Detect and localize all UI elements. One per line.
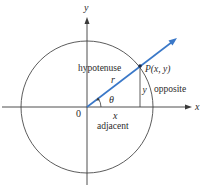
adjacent-side-label: x [112, 110, 118, 121]
point-label: P(x, y) [144, 64, 170, 75]
terminal-ray [87, 42, 172, 107]
opposite-side-label: y [142, 85, 148, 95]
opposite-label: opposite [154, 84, 186, 94]
unit-circle-diagram: y x 0 hypotenuse r P(x, y) y opposite θ … [0, 0, 204, 188]
y-axis-label: y [83, 2, 89, 13]
radius-label: r [111, 74, 115, 85]
x-axis-label: x [194, 101, 200, 112]
x-axis-arrow-icon [185, 105, 192, 110]
origin-label: 0 [76, 108, 81, 119]
diagram-canvas: y x 0 hypotenuse r P(x, y) y opposite θ … [0, 0, 204, 188]
point-p [138, 64, 142, 68]
y-axis-arrow-icon [85, 17, 90, 24]
hypotenuse-label: hypotenuse [78, 63, 121, 73]
adjacent-label: adjacent [97, 121, 129, 131]
angle-label: θ [109, 94, 114, 105]
